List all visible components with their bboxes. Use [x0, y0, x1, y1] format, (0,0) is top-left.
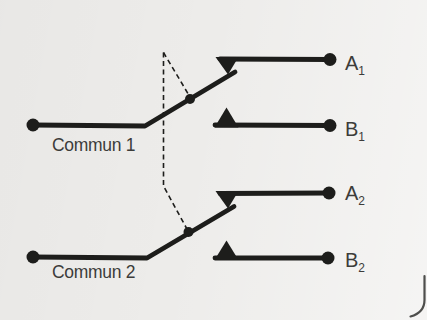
- contact-b2-arrow: [215, 241, 239, 261]
- pole-2-pivot-dot: [184, 227, 194, 237]
- contact-b1-terminal-dot: [324, 119, 337, 132]
- page-curl-mark: [411, 276, 425, 317]
- pole-2: Commun 2 A2 B2: [27, 182, 366, 282]
- pole-1: Commun 1 A1 B1: [27, 52, 366, 155]
- common-1-terminal-dot: [27, 119, 40, 132]
- contact-a1-label: A1: [345, 52, 365, 78]
- contact-b2-terminal-dot: [322, 252, 335, 265]
- contact-b1-label: B1: [345, 118, 365, 144]
- switch-schematic: Commun 1 A1 B1 Commun 2 A2 B2: [0, 0, 427, 320]
- common-2-wire-and-arm: [33, 207, 234, 259]
- common-2-label: Commun 2: [52, 262, 135, 282]
- contact-a2-label: A2: [345, 182, 365, 208]
- pole-1-pivot-dot: [185, 94, 195, 104]
- mechanical-link-lower-dashed-line: [164, 53, 188, 231]
- mechanical-link-upper-dashed-line: [164, 53, 191, 98]
- contact-a2-terminal-dot: [323, 187, 336, 200]
- contact-b2-label: B2: [345, 249, 365, 275]
- common-1-label: Commun 1: [52, 135, 135, 155]
- common-2-terminal-dot: [27, 251, 40, 264]
- scanned-page: Commun 1 A1 B1 Commun 2 A2 B2: [0, 0, 427, 320]
- contact-a1-terminal-dot: [324, 53, 337, 66]
- contact-b1-arrow: [215, 108, 239, 128]
- common-1-wire-and-arm: [33, 72, 235, 126]
